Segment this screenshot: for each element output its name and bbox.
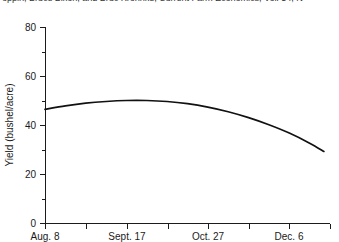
yield-by-planting-date-chart: 0 20 40 60 80 Yield (bushel/acre) Aug. 8…	[0, 0, 339, 242]
x-tick-label-sept17: Sept. 17	[108, 231, 146, 242]
y-tick-label-60: 60	[25, 71, 37, 82]
y-tick-label-40: 40	[25, 120, 37, 131]
x-tick-label-aug8: Aug. 8	[31, 231, 60, 242]
chart-canvas: 0 20 40 60 80 Yield (bushel/acre) Aug. 8…	[0, 0, 339, 242]
y-axis-major-ticks	[40, 28, 46, 224]
x-axis-major-ticks	[46, 224, 290, 230]
y-axis-title: Yield (bushel/acre)	[4, 83, 15, 166]
y-tick-label-80: 80	[25, 22, 37, 33]
x-tick-label-oct27: Oct. 27	[192, 231, 225, 242]
y-tick-label-20: 20	[25, 169, 37, 180]
yield-curve	[45, 100, 324, 151]
x-tick-label-dec6: Dec. 6	[275, 231, 304, 242]
y-tick-label-0: 0	[30, 218, 36, 229]
